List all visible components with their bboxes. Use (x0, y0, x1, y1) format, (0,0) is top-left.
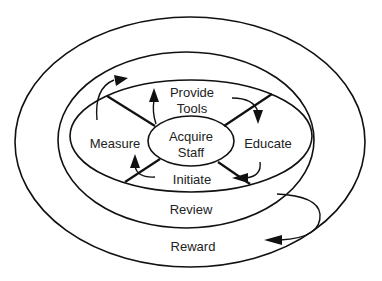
label-educate: Educate (244, 136, 292, 151)
arrow-icon (149, 88, 159, 124)
label-measure: Measure (90, 136, 141, 151)
label-provide: Provide (170, 85, 214, 100)
label-initiate: Initiate (173, 172, 211, 187)
spoke-bottom-left (125, 159, 160, 182)
label-acquire: Acquire (169, 129, 213, 144)
arrow-icon (232, 162, 260, 183)
label-reward: Reward (171, 239, 216, 254)
label-staff: Staff (178, 145, 205, 160)
arrow-icon (264, 194, 320, 245)
spoke-top-left (107, 96, 155, 126)
spoke-top-right (224, 94, 272, 126)
label-review: Review (170, 202, 213, 217)
arrow-icon (97, 75, 128, 120)
label-tools: Tools (177, 101, 208, 116)
staff-cycle-diagram: Provide Tools Acquire Staff Measure Educ… (0, 0, 382, 281)
